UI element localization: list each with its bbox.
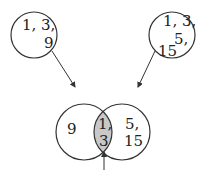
arrow-a (52, 51, 75, 87)
set-b-label-line1: 1, 3, (163, 13, 196, 29)
venn-diagram: 1, 3, 9 1, 3, 5, 15 9 1, 3 5, 15 (0, 0, 208, 170)
arrow-b (138, 51, 155, 87)
set-a-label-line1: 1, 3, (22, 17, 55, 33)
set-b-label-line3: 15 (158, 43, 177, 59)
venn-intersection-line2: 3 (99, 133, 109, 149)
venn-right-only-line2: 15 (124, 133, 143, 149)
venn-right-only-line1: 5, (125, 116, 139, 132)
set-a-label-line2: 9 (44, 35, 54, 51)
venn-intersection-line1: 1, (98, 116, 112, 132)
venn-left-only: 9 (67, 121, 77, 137)
